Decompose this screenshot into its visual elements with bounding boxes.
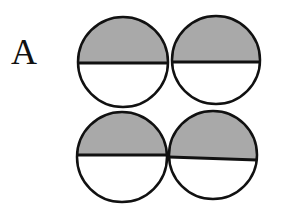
circle-bottom-left bbox=[75, 110, 169, 202]
circle-top-half-shaded bbox=[75, 110, 169, 155]
circle-top-half-shaded bbox=[170, 14, 262, 62]
circle-top-right bbox=[170, 14, 262, 104]
circle-top-half-shaded bbox=[167, 109, 259, 160]
circle-top-left bbox=[76, 15, 170, 107]
circles-diagram bbox=[0, 0, 281, 223]
circle-top-half-shaded bbox=[76, 15, 170, 63]
circle-bottom-right bbox=[167, 109, 259, 199]
